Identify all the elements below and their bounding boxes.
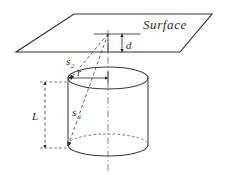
ray-s1-label-group: s 1	[72, 106, 82, 121]
ray-s2-subscript: 2	[71, 62, 75, 70]
ray-s1-subscript: 1	[78, 113, 82, 121]
length-label: L	[31, 110, 38, 122]
depth-label: d	[126, 39, 132, 51]
geometry-diagram: Surface d r L s	[0, 0, 226, 175]
figure-container: Surface d r L s	[0, 0, 226, 175]
ray-s2-line	[70, 34, 108, 79]
surface-label: Surface	[143, 17, 187, 32]
ray-s2-label: s	[66, 55, 70, 67]
radius-label: r	[77, 66, 82, 78]
ray-s1-label: s	[72, 106, 76, 118]
ray-s1-line	[68, 34, 108, 146]
ray-s2-label-group: s 2	[66, 55, 75, 70]
